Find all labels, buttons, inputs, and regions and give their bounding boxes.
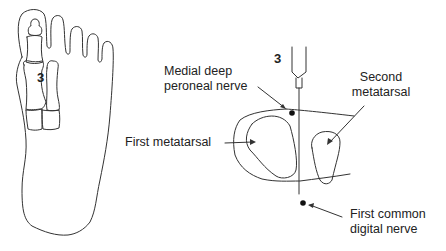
right-panel-marker: 3 xyxy=(274,51,281,66)
medial-cuneiform xyxy=(26,109,42,130)
first-metatarsal-bone xyxy=(23,61,46,110)
first-metatarsal-pointer xyxy=(225,142,253,143)
second-metatarsal-bone xyxy=(47,61,60,111)
label-line: Second xyxy=(346,70,416,85)
middle-cuneiform xyxy=(42,110,60,130)
syringe-hub xyxy=(296,78,302,88)
label-line: First common xyxy=(350,207,426,222)
foot-outline xyxy=(16,10,113,236)
second-metatarsal-pointer xyxy=(330,106,364,142)
left-panel-marker: 3 xyxy=(37,70,44,85)
cross-section-outline xyxy=(234,109,350,181)
label-first-metatarsal: First metatarsal xyxy=(125,135,211,150)
label-medial-deep-peroneal-nerve: Medial deep peroneal nerve xyxy=(164,64,247,94)
hallux-proximal-phalanx xyxy=(26,36,43,64)
arrowhead-first-common-digital xyxy=(308,203,314,208)
label-line: peroneal nerve xyxy=(164,79,247,94)
first-common-digital-nerve-pointer xyxy=(310,205,342,217)
medial-deep-peroneal-nerve-pointer xyxy=(258,87,285,108)
syringe-barrel xyxy=(292,47,306,78)
medial-deep-peroneal-nerve-dot xyxy=(289,110,295,116)
label-line: metatarsal xyxy=(346,85,416,100)
hallux-distal-phalanx xyxy=(28,19,42,36)
label-second-metatarsal: Second metatarsal xyxy=(346,70,416,100)
label-line: digital nerve xyxy=(350,222,426,237)
label-line: Medial deep xyxy=(164,64,247,79)
arrowhead-first-metatarsal xyxy=(250,139,256,145)
first-common-digital-nerve-dot xyxy=(300,200,306,206)
first-metatarsal-section xyxy=(246,116,296,178)
cross-section-dorsal-line xyxy=(286,109,354,116)
label-first-common-digital-nerve: First common digital nerve xyxy=(350,207,426,237)
